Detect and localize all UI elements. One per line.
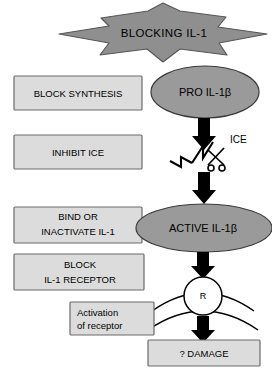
damage-box[interactable]: ? DAMAGE [148,340,260,366]
zigzag-path-lower [170,157,192,167]
pro-il1b-label: PRO IL-1β [179,86,231,98]
scissors-handle-a [219,165,225,171]
bind-or-inactivate-label-line2: INACTIVATE IL-1 [41,226,115,237]
pro-il1b-node[interactable]: PRO IL-1β [151,66,259,118]
receptor-label: R [200,291,207,301]
scissors-icon [208,148,225,171]
pathway-diagram: BLOCKING IL-1 BLOCK SYNTHESIS PRO IL-1β … [0,0,272,375]
activation-label-line1: Activation [77,307,118,318]
ice-label: ICE [230,134,247,145]
thick-down-arrow-icon-3 [191,252,215,279]
damage-label: ? DAMAGE [179,348,228,359]
active-il1b-node[interactable]: ACTIVE IL-1β [136,204,272,252]
arrow-receptor-to-damage [191,316,215,343]
blocking-il1-banner: BLOCKING IL-1 [59,3,267,62]
block-receptor-label-line2: IL-1 RECEPTOR [44,274,116,285]
inhibit-ice-label: INHIBIT ICE [52,147,104,158]
activation-of-receptor-box[interactable]: Activation of receptor [70,302,154,335]
receptor-node[interactable]: R [184,277,222,315]
banner-label: BLOCKING IL-1 [121,27,207,39]
scissors-handle-b [208,165,214,171]
block-receptor-label-line1: BLOCK [64,259,97,270]
diagram-canvas: BLOCKING IL-1 BLOCK SYNTHESIS PRO IL-1β … [0,0,272,375]
bind-or-inactivate-label-line1: BIND OR [58,211,98,222]
active-il1b-label: ACTIVE IL-1β [169,222,237,234]
bind-or-inactivate-box[interactable]: BIND OR INACTIVATE IL-1 [14,207,142,243]
arrow-active-to-receptor [191,252,215,279]
inhibit-ice-box[interactable]: INHIBIT ICE [14,135,142,169]
thick-down-arrow-icon-4 [191,316,215,343]
block-synthesis-label: BLOCK SYNTHESIS [34,88,123,99]
arrow-cleavage-to-active [192,172,216,204]
block-synthesis-box[interactable]: BLOCK SYNTHESIS [14,76,142,110]
block-receptor-box[interactable]: BLOCK IL-1 RECEPTOR [14,254,144,290]
activation-label-line2: of receptor [77,320,122,331]
thick-down-arrow-icon-2 [192,172,216,204]
